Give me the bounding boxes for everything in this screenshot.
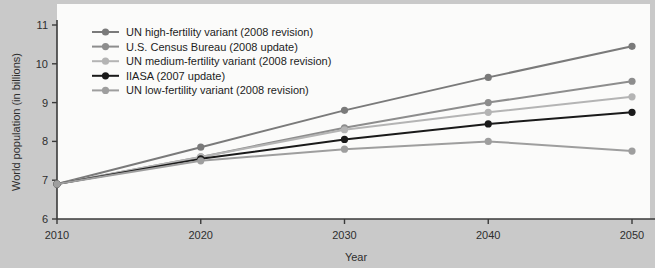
chart-legend: UN high-fertility variant (2008 revision… bbox=[92, 26, 331, 96]
legend-label: UN high-fertility variant (2008 revision… bbox=[126, 26, 313, 38]
svg-text:10: 10 bbox=[36, 58, 48, 70]
svg-text:6: 6 bbox=[42, 213, 48, 225]
data-point bbox=[53, 180, 60, 187]
svg-text:2030: 2030 bbox=[332, 229, 356, 241]
data-point bbox=[341, 146, 348, 153]
svg-text:2050: 2050 bbox=[620, 229, 644, 241]
legend-label: UN medium-fertility variant (2008 revisi… bbox=[126, 55, 331, 67]
data-point bbox=[485, 109, 492, 116]
data-point bbox=[628, 148, 635, 155]
svg-text:9: 9 bbox=[42, 97, 48, 109]
data-point bbox=[628, 109, 635, 116]
svg-text:11: 11 bbox=[37, 19, 48, 31]
legend-marker bbox=[102, 72, 109, 79]
data-point bbox=[341, 136, 348, 143]
data-point bbox=[485, 99, 492, 106]
data-point bbox=[197, 144, 204, 151]
data-point bbox=[628, 43, 635, 50]
y-axis-ticks: 67891011 bbox=[36, 19, 57, 225]
x-axis-ticks: 20102020203020402050 bbox=[45, 219, 644, 241]
population-projection-line-chart: 67891011 20102020203020402050 UN high-fe… bbox=[0, 0, 655, 268]
legend-label: IIASA (2007 update) bbox=[126, 70, 225, 82]
data-point bbox=[341, 107, 348, 114]
svg-text:8: 8 bbox=[42, 135, 48, 147]
svg-text:2040: 2040 bbox=[476, 229, 500, 241]
y-axis-title: World population (in billions) bbox=[10, 53, 22, 191]
legend-marker bbox=[102, 87, 109, 94]
data-point bbox=[485, 138, 492, 145]
svg-text:7: 7 bbox=[42, 174, 48, 186]
legend-label: U.S. Census Bureau (2008 update) bbox=[126, 41, 298, 53]
x-axis-title: Year bbox=[345, 251, 368, 263]
svg-text:2010: 2010 bbox=[45, 229, 69, 241]
data-point bbox=[628, 93, 635, 100]
chart-figure: 67891011 20102020203020402050 UN high-fe… bbox=[0, 0, 655, 268]
legend-marker bbox=[102, 28, 109, 35]
data-point bbox=[197, 157, 204, 164]
svg-text:2020: 2020 bbox=[189, 229, 213, 241]
data-point bbox=[485, 120, 492, 127]
data-point bbox=[628, 78, 635, 85]
legend-marker bbox=[102, 43, 109, 50]
data-point bbox=[485, 74, 492, 81]
data-point bbox=[341, 126, 348, 133]
legend-label: UN low-fertility variant (2008 revision) bbox=[126, 84, 309, 96]
legend-marker bbox=[102, 58, 109, 65]
